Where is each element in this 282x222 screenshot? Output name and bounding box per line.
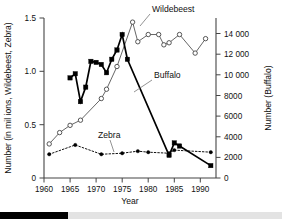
- x-axis: 1960 1965 1970 1975 1980 1985 1990 Year: [35, 178, 216, 206]
- datapoint-zebra-1985: [173, 148, 176, 151]
- datapoint-wildebeest-1989: [193, 51, 197, 55]
- y-right-ticklabel-6: 12 000: [224, 50, 249, 59]
- annotation-buffalo-label: Buffalo: [154, 70, 181, 80]
- datapoint-zebra-1978: [136, 149, 139, 152]
- y-right-ticklabel-2: 4000: [224, 133, 243, 142]
- x-ticklabel-6: 1990: [191, 185, 210, 194]
- datapoint-buffalo-1976: [125, 57, 129, 61]
- scrollbar-thumb[interactable]: [0, 212, 68, 219]
- series-buffalo: [68, 32, 213, 167]
- datapoint-buffalo-1984: [167, 153, 171, 157]
- y-right-ticklabel-3: 6000: [224, 112, 243, 121]
- datapoint-wildebeest-1984: [167, 41, 171, 45]
- datapoint-buffalo-1974: [115, 48, 119, 52]
- datapoint-zebra-1966: [74, 143, 77, 146]
- x-ticklabel-4: 1980: [139, 185, 158, 194]
- x-ticklabel-0: 1960: [35, 185, 54, 194]
- datapoint-buffalo-1972: [104, 71, 108, 75]
- horizontal-scrollbar[interactable]: [0, 212, 282, 219]
- datapoint-wildebeest-1961: [47, 142, 51, 146]
- datapoint-wildebeest-1991: [203, 36, 207, 40]
- datapoint-zebra-1975: [120, 152, 123, 155]
- x-ticklabel-5: 1985: [165, 185, 184, 194]
- y-right-ticklabel-0: 0: [224, 174, 229, 183]
- datapoint-wildebeest-1977: [130, 20, 134, 24]
- annotation-wildebeest: Wildebeest: [140, 4, 195, 26]
- datapoint-wildebeest-1972: [104, 87, 108, 91]
- x-ticklabel-1: 1965: [61, 185, 80, 194]
- y-right-ticklabel-4: 8000: [224, 92, 243, 101]
- datapoint-zebra-1971: [100, 153, 103, 156]
- datapoint-wildebeest-1978: [136, 40, 140, 44]
- datapoint-wildebeest-1974: [115, 64, 119, 68]
- y-left-ticklabel-3: 1.5: [25, 14, 37, 23]
- datapoint-wildebeest-1980: [146, 32, 150, 36]
- datapoint-buffalo-1969: [89, 59, 93, 63]
- x-ticklabel-3: 1975: [113, 185, 132, 194]
- datapoint-wildebeest-1986: [177, 32, 181, 36]
- datapoint-buffalo-1973: [110, 57, 114, 61]
- y-left-ticklabel-1: 0.5: [25, 121, 37, 130]
- datapoint-buffalo-1966: [73, 72, 77, 76]
- y-left-ticklabel-2: 1.0: [25, 67, 37, 76]
- datapoint-buffalo-1992: [209, 163, 213, 167]
- y-right-ticklabel-1: 2000: [224, 153, 243, 162]
- datapoint-zebra-1980: [147, 150, 150, 153]
- x-axis-title: Year: [121, 196, 139, 206]
- datapoint-wildebeest-1965: [68, 123, 72, 127]
- datapoint-buffalo-1971: [99, 62, 103, 66]
- chart-svg: 0 0.5 1.0 1.5 Number (in mil ions, Wilde…: [0, 0, 282, 206]
- series-zebra: [48, 143, 213, 156]
- annotation-zebra-label: Zebra: [98, 130, 121, 140]
- right-axis: 0 2000 4000 6000 8000 10 000 12 000 14 0…: [216, 18, 273, 183]
- annotation-zebra: Zebra: [98, 130, 121, 152]
- y-left-axis-title: Number (in mil ions, Wildebeest, Zebra): [3, 22, 13, 174]
- chart-figure: 0 0.5 1.0 1.5 Number (in mil ions, Wilde…: [0, 0, 282, 206]
- series-wildebeest: [47, 20, 208, 146]
- datapoint-wildebeest-1967: [78, 118, 82, 122]
- datapoint-wildebeest-1963: [57, 130, 61, 134]
- y-right-ticklabel-7: 14 000: [224, 30, 249, 39]
- datapoint-buffalo-1985: [172, 141, 176, 145]
- datapoint-buffalo-1970: [94, 60, 98, 64]
- datapoint-buffalo-1986: [177, 144, 181, 148]
- datapoint-buffalo-1975: [120, 32, 124, 36]
- datapoint-zebra-1992: [209, 150, 212, 153]
- left-axis: 0 0.5 1.0 1.5 Number (in mil ions, Wilde…: [3, 14, 44, 183]
- series-line-buffalo: [70, 35, 211, 166]
- datapoint-zebra-1961: [48, 153, 51, 156]
- x-ticklabel-2: 1970: [87, 185, 106, 194]
- datapoint-buffalo-1968: [84, 85, 88, 89]
- datapoint-wildebeest-1983: [162, 43, 166, 47]
- y-right-ticklabel-5: 10 000: [224, 71, 249, 80]
- y-right-axis-title: Number (Buffalo): [263, 65, 273, 130]
- datapoint-wildebeest-1982: [156, 32, 160, 36]
- annotation-wildebeest-label: Wildebeest: [152, 4, 195, 14]
- datapoint-wildebeest-1971: [99, 96, 103, 100]
- y-left-ticklabel-0: 0: [31, 174, 36, 183]
- datapoint-buffalo-1965: [68, 76, 72, 80]
- datapoint-buffalo-1967: [78, 99, 82, 103]
